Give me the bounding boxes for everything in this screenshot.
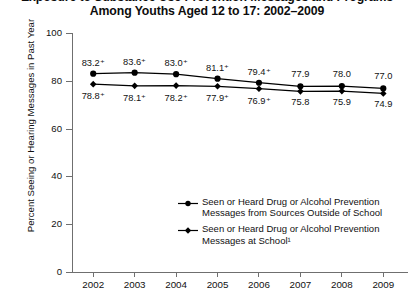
- y-tick-label-40: 40: [38, 170, 62, 181]
- y-axis-title: Percent Seeing or Hearing Messages in Pa…: [25, 18, 36, 233]
- legend-label-outside-school-line2: Messages from Sources Outside of School: [202, 207, 414, 218]
- y-tick-label-100: 100: [38, 27, 62, 38]
- data-point-marker: [214, 76, 220, 82]
- y-tick-label-80: 80: [38, 75, 62, 86]
- x-tick-2009: [383, 272, 384, 277]
- x-tick-2004: [176, 272, 177, 277]
- y-tick-label-0: 0: [38, 266, 62, 277]
- x-tick-label-2007: 2007: [277, 279, 323, 290]
- data-label-2004: 83.0⁺: [156, 57, 196, 68]
- x-tick-2006: [258, 272, 259, 277]
- x-tick-label-2003: 2003: [112, 279, 158, 290]
- data-point-marker: [256, 85, 263, 92]
- data-point-marker: [173, 71, 179, 77]
- data-point-marker: [132, 70, 138, 76]
- data-label-2006: 79.4⁺: [239, 66, 279, 77]
- data-point-marker: [131, 83, 138, 90]
- data-label-2002: 78.8⁺: [73, 90, 113, 101]
- data-point-marker: [173, 82, 180, 89]
- x-tick-label-2002: 2002: [70, 279, 116, 290]
- data-label-2005: 81.1⁺: [198, 62, 238, 73]
- x-tick-label-2006: 2006: [236, 279, 282, 290]
- legend-label-at-school-line1: Seen or Heard Drug or Alcohol Prevention: [202, 223, 414, 234]
- data-label-2008: 78.0: [322, 69, 362, 79]
- data-point-marker: [214, 83, 221, 90]
- x-tick-2008: [341, 272, 342, 277]
- data-point-marker: [380, 90, 387, 97]
- data-label-2008: 75.9: [322, 97, 362, 107]
- chart-title: Exposure to Substance Use Prevention Mes…: [0, 0, 414, 18]
- x-axis-line: [72, 272, 408, 273]
- data-label-2002: 83.2⁺: [73, 57, 113, 68]
- data-point-marker: [90, 81, 97, 88]
- y-tick-100: [66, 33, 72, 34]
- data-point-marker: [297, 83, 303, 89]
- data-point-marker: [256, 80, 262, 86]
- legend-label-at-school-line2: Messages at School¹: [202, 235, 414, 246]
- data-point-marker: [90, 71, 96, 77]
- y-axis-line: [72, 33, 73, 273]
- chart-legend: Seen or Heard Drug or Alcohol Prevention…: [178, 196, 414, 251]
- x-tick-2007: [300, 272, 301, 277]
- data-label-2004: 78.2⁺: [156, 92, 196, 103]
- x-tick-2002: [93, 272, 94, 277]
- legend-marker-circle-icon: [178, 200, 198, 207]
- x-tick-label-2004: 2004: [153, 279, 199, 290]
- data-label-2007: 77.9: [280, 69, 320, 79]
- legend-item-at-school[interactable]: Seen or Heard Drug or Alcohol Prevention…: [178, 223, 414, 245]
- y-tick-0: [66, 272, 72, 273]
- data-label-2007: 75.8: [280, 97, 320, 107]
- y-tick-60: [66, 129, 72, 130]
- legend-item-outside-school[interactable]: Seen or Heard Drug or Alcohol Prevention…: [178, 196, 414, 218]
- y-tick-20: [66, 224, 72, 225]
- plot-lines: [0, 0, 414, 296]
- x-tick-label-2008: 2008: [319, 279, 365, 290]
- data-label-2006: 76.9⁺: [239, 95, 279, 106]
- y-tick-label-20: 20: [38, 218, 62, 229]
- legend-marker-diamond-icon: [178, 227, 198, 234]
- data-point-marker: [297, 88, 304, 95]
- data-point-marker: [380, 85, 386, 91]
- chart-title-line-2: Among Youths Aged 12 to 17: 2002–2009: [0, 5, 414, 19]
- x-tick-label-2009: 2009: [360, 279, 406, 290]
- legend-label-outside-school-line1: Seen or Heard Drug or Alcohol Prevention: [202, 196, 414, 207]
- x-tick-2003: [134, 272, 135, 277]
- y-tick-40: [66, 176, 72, 177]
- y-tick-label-60: 60: [38, 123, 62, 134]
- data-point-marker: [339, 83, 345, 89]
- data-label-2003: 78.1⁺: [115, 92, 155, 103]
- x-tick-2005: [217, 272, 218, 277]
- data-label-2009: 77.0: [363, 71, 403, 81]
- x-tick-label-2005: 2005: [195, 279, 241, 290]
- data-label-2003: 83.6⁺: [115, 56, 155, 67]
- data-label-2009: 74.9: [363, 99, 403, 109]
- data-label-2005: 77.9⁺: [198, 92, 238, 103]
- y-tick-80: [66, 81, 72, 82]
- data-point-marker: [339, 88, 346, 95]
